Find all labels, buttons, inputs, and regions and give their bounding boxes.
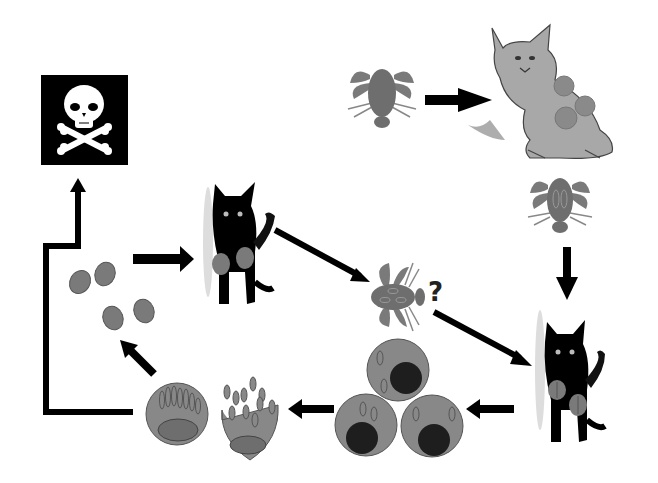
skull-crossbones-icon: [41, 75, 128, 165]
question-mark-annotation: ?: [428, 277, 443, 307]
cat-right-icon: [535, 310, 605, 442]
arrow-cat-to-tick: [275, 230, 370, 282]
tick-icon: [348, 69, 416, 128]
arrow-cat-to-cells: [466, 399, 514, 419]
infected-tick-icon: [528, 178, 592, 233]
arrow-down-to-cat: [556, 247, 578, 300]
life-cycle-diagram: [0, 0, 658, 483]
schizont-cell-icon: [146, 383, 208, 445]
arrow-tick-to-cat: [434, 312, 532, 366]
arrow-to-death: [46, 178, 133, 412]
arrow-tick-to-lynx: [425, 88, 492, 112]
ruptured-cell-icon: [222, 377, 278, 460]
merozoites-icon: [65, 259, 157, 332]
arrow-rupture-to-parasites: [120, 340, 154, 374]
arrow-parasites-to-cat: [133, 246, 194, 272]
arrow-cells-to-rupture: [288, 399, 334, 419]
cat-left-icon: [203, 182, 275, 304]
lynx-icon: [468, 25, 613, 158]
tick-sideways-icon: [371, 263, 425, 331]
infected-cells-icon: [335, 339, 463, 457]
